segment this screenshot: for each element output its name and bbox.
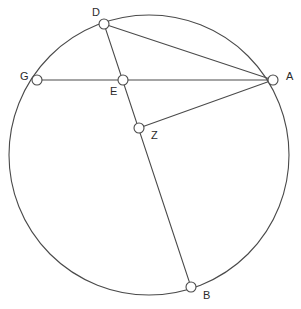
- geometry-diagram: D G E A Z B: [0, 0, 301, 309]
- point-label-G: G: [20, 70, 29, 82]
- vertex-markers: [32, 19, 278, 292]
- point-marker-Z: [134, 123, 144, 133]
- point-marker-D: [99, 19, 109, 29]
- point-marker-E: [118, 75, 128, 85]
- point-marker-B: [186, 282, 196, 292]
- segment-D-B: [104, 24, 191, 287]
- point-label-B: B: [203, 289, 210, 301]
- chord-segments: [37, 24, 273, 287]
- point-label-Z: Z: [151, 129, 158, 141]
- point-label-D: D: [92, 6, 100, 18]
- vertex-labels: D G E A Z B: [20, 6, 294, 301]
- point-label-E: E: [110, 85, 117, 97]
- segment-Z-A: [139, 80, 273, 128]
- point-marker-A: [268, 75, 278, 85]
- geometry-canvas: D G E A Z B: [0, 0, 301, 309]
- segment-D-A: [104, 24, 273, 80]
- main-circle: [9, 15, 289, 295]
- point-label-A: A: [286, 70, 294, 82]
- point-marker-G: [32, 75, 42, 85]
